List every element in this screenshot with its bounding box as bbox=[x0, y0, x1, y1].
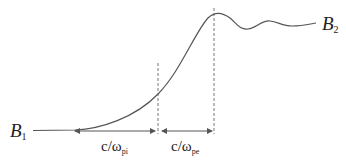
ion-inertial-length-label: c/ωpi bbox=[101, 138, 129, 156]
field-profile-curve bbox=[33, 14, 316, 131]
electron-inertial-length-label: c/ωpe bbox=[171, 138, 200, 156]
shock-profile-diagram: B1 B2 c/ωpi c/ωpe bbox=[0, 0, 346, 160]
b2-label: B2 bbox=[322, 13, 339, 35]
b1-label: B1 bbox=[10, 120, 27, 142]
